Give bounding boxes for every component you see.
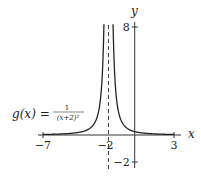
y-tick-label: 8 (123, 21, 130, 34)
x-tick-label: 3 (171, 139, 178, 152)
ticks: −7−238−2 (35, 21, 178, 169)
function-lhs: g(x) = (12, 107, 50, 121)
plot-svg: −7−238−2 x y g(x) = 1 (x+2)² (0, 0, 201, 179)
chart-area: −7−238−2 x y g(x) = 1 (x+2)² (0, 0, 201, 179)
x-tick-label: −7 (35, 139, 51, 152)
y-tick-label: −2 (113, 156, 129, 169)
x-axis-label: x (188, 127, 195, 141)
function-numerator: 1 (65, 104, 69, 112)
curve-right-branch (113, 24, 174, 134)
function-label: g(x) = 1 (x+2)² (12, 104, 84, 122)
x-tick-label: −2 (97, 139, 113, 152)
function-denominator: (x+2)² (57, 114, 80, 122)
y-axis-label: y (130, 4, 138, 18)
